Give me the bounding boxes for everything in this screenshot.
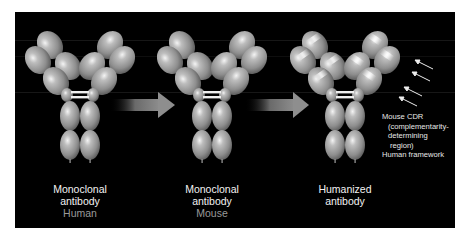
legend-line-1: Mouse CDR (382, 112, 455, 122)
caption-humanized: Humanized antibody (290, 183, 400, 207)
caption-subtitle: Mouse (157, 207, 267, 219)
caption-title-line1: Monoclonal (53, 183, 107, 195)
right-arrow-icon (245, 92, 309, 118)
caption-title-line2: antibody (60, 195, 100, 207)
cdr-legend: Mouse CDR (complementarity- determining … (382, 112, 455, 160)
caption-title-line2: antibody (192, 195, 232, 207)
caption-human: Monoclonal antibody Human (25, 183, 135, 219)
antibody-human (20, 26, 141, 163)
legend-line-5: Human framework (382, 150, 455, 160)
caption-subtitle: Human (25, 207, 135, 219)
antibody-mouse (152, 26, 273, 163)
caption-mouse: Monoclonal antibody Mouse (157, 183, 267, 219)
legend-line-3: determining (382, 131, 455, 141)
diagram-panel: Monoclonal antibody Human Monoclonal ant… (15, 12, 455, 228)
cdr-pointer-arrows (399, 60, 433, 106)
caption-title-line1: Monoclonal (185, 183, 239, 195)
right-arrow-icon (110, 92, 175, 118)
legend-line-2: (complementarity- (382, 122, 455, 132)
caption-title-line2: antibody (325, 195, 365, 207)
caption-title-line1: Humanized (318, 183, 371, 195)
legend-line-4: region) (382, 141, 455, 151)
